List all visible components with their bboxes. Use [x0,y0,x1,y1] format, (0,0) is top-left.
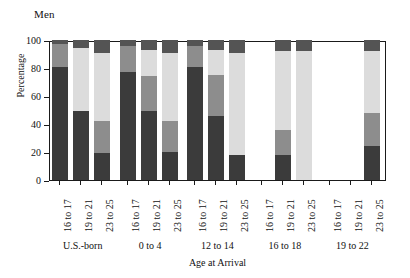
bar-segment [94,40,110,53]
bar[interactable] [73,40,89,180]
bar[interactable] [296,40,312,180]
x-axis-tick [127,181,128,185]
bar-segment [94,153,110,180]
bar-segment [208,116,224,180]
bar[interactable] [275,40,291,180]
bar-segment [52,44,68,66]
bar-segment [364,146,380,180]
x-axis-category-label: 23 to 25 [173,199,183,232]
plot-area [49,41,386,181]
x-axis-tick [303,181,304,185]
x-axis-tick [169,181,170,185]
bar-segment [275,130,291,155]
x-axis-group-label: 0 to 4 [116,240,183,251]
bar[interactable] [52,40,68,180]
x-axis-group-label: 12 to 14 [184,240,251,251]
x-axis-group-label: 19 to 22 [319,240,386,251]
bar-segment [162,152,178,180]
x-axis-category-label: 23 to 25 [240,199,250,232]
y-axis-tick-label: 0 [0,176,41,186]
x-axis-category-label: 16 to 17 [198,199,208,232]
bar-segment [187,46,203,67]
bar[interactable] [120,40,136,180]
bar-segment [141,40,157,50]
x-axis-category-label: 19 to 21 [354,199,364,232]
bar-segment [187,67,203,180]
x-axis-category-label: 19 to 21 [286,199,296,232]
x-axis-tick [148,181,149,185]
x-axis-category-label: 16 to 17 [63,199,73,232]
bar-segment [52,67,68,180]
bar-segment [73,40,89,48]
x-axis-category-label: 16 to 17 [131,199,141,232]
x-axis-tick [350,181,351,185]
bar-segment [275,155,291,180]
bar[interactable] [162,40,178,180]
bar-segment [229,40,245,53]
y-axis-tick-label: 80 [0,64,41,74]
bar-segment [364,113,380,147]
bar-segment [141,111,157,180]
bar-segment [73,111,89,180]
bar-segment [141,76,157,111]
bar-segment [162,40,178,53]
x-axis-category-label: 16 to 17 [265,199,275,232]
bar-segment [296,51,312,180]
bar-segment [208,40,224,50]
bar-segment [364,40,380,51]
x-axis-tick [215,181,216,185]
bar-segment [162,53,178,122]
bar-segment [229,155,245,180]
x-axis-group-label: 16 to 18 [251,240,318,251]
bar-segment [120,72,136,180]
y-axis-tick-label: 100 [0,36,41,46]
chart-title: Men [34,8,55,20]
x-axis-category-label: 23 to 25 [307,199,317,232]
bar-segment [120,46,136,73]
bar[interactable] [94,40,110,180]
bar-segment [208,75,224,116]
bar-segment [94,121,110,153]
bar[interactable] [187,40,203,180]
x-axis-tick [282,181,283,185]
bar-segment [73,48,89,111]
bar-segment [229,53,245,155]
x-axis-group-label: U.S.-born [49,240,116,251]
y-axis-tick-label: 20 [0,148,41,158]
x-axis-category-label: 19 to 21 [84,199,94,232]
bar-segment [275,51,291,129]
x-axis-category-label: 16 to 17 [333,199,343,232]
bar[interactable] [141,40,157,180]
x-axis-tick [101,181,102,185]
chart-container: Men Percentage 020406080100 Age at Arriv… [0,0,410,278]
x-axis-tick [329,181,330,185]
x-axis-category-label: 23 to 25 [105,199,115,232]
y-axis-tick-label: 60 [0,92,41,102]
bar-segment [162,121,178,152]
x-axis-tick [261,181,262,185]
bar-segment [208,50,224,75]
bar-segment [296,40,312,51]
x-axis-tick [59,181,60,185]
x-axis-category-label: 19 to 21 [152,199,162,232]
x-axis-category-label: 23 to 25 [375,199,385,232]
y-axis-tick-label: 40 [0,120,41,130]
x-axis-title: Age at Arrival [49,257,386,268]
bar-segment [141,50,157,77]
bar[interactable] [229,40,245,180]
bar[interactable] [208,40,224,180]
x-axis-tick [371,181,372,185]
x-axis-tick [80,181,81,185]
bar[interactable] [364,40,380,180]
x-axis-category-label: 19 to 21 [219,199,229,232]
x-axis-tick [194,181,195,185]
bar-segment [94,53,110,122]
bar-segment [364,51,380,113]
x-axis-tick [236,181,237,185]
bar-segment [275,40,291,51]
